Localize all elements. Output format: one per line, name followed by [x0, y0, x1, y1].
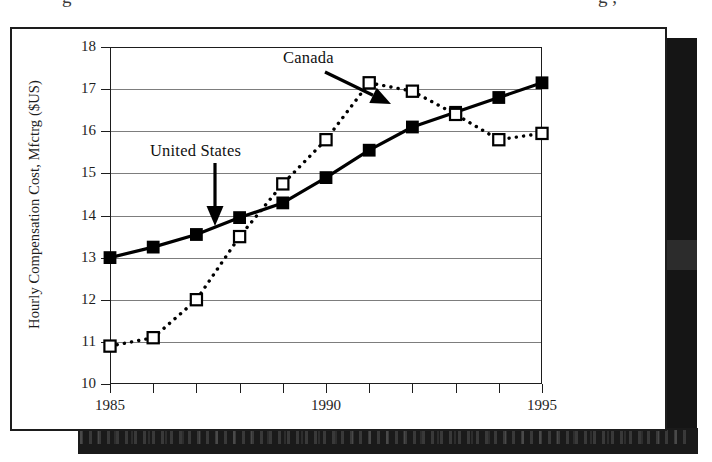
- scan-glyph-left: g: [62, 0, 72, 8]
- scan-top-artifact: g g ,: [0, 0, 712, 16]
- figure-shadow-bottom-texture: [80, 430, 692, 444]
- figure-shadow-right-band: [665, 240, 697, 270]
- figure-shadow-right: [665, 38, 697, 438]
- scanned-page: g g , Hourly Compensation Cost, Mfctrg (…: [0, 0, 712, 462]
- scan-glyph-right: g ,: [598, 0, 617, 8]
- figure-frame: [10, 27, 667, 431]
